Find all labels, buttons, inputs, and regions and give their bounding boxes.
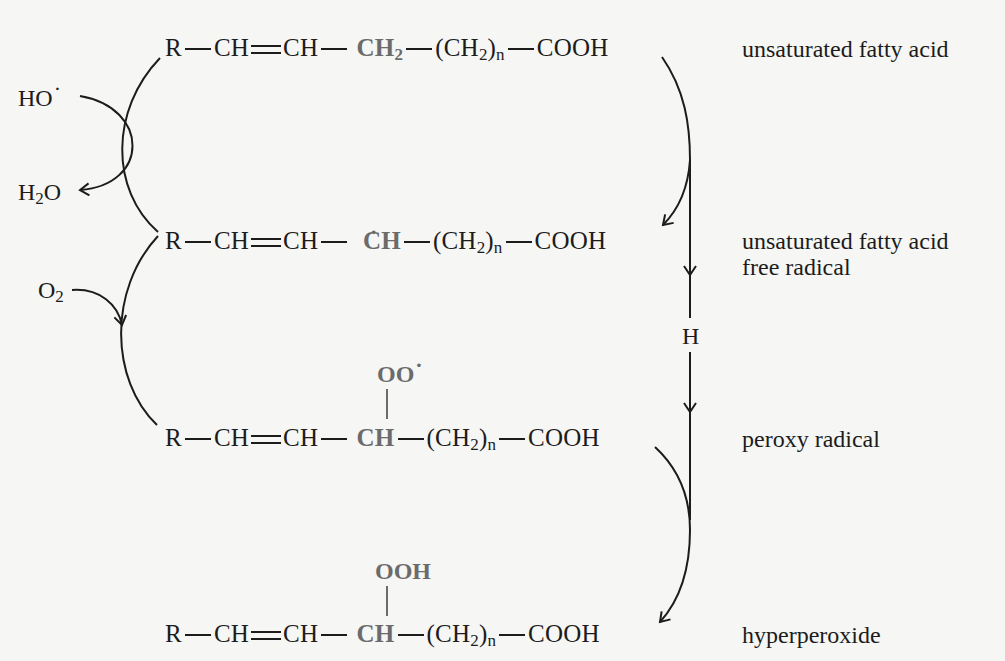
single-bond [185, 48, 211, 50]
single-bond [321, 438, 347, 440]
peroxy-substituent: OO· [377, 361, 423, 388]
ch-group: CH [214, 619, 249, 649]
chain-open: (CH [433, 226, 477, 256]
vertical-bond [386, 586, 388, 616]
double-bond [251, 435, 281, 444]
radical-dot: · [370, 217, 378, 247]
curved-arrow-icon [122, 58, 160, 232]
single-bond [398, 634, 424, 636]
single-bond [321, 48, 347, 50]
ch-group: CH [214, 226, 249, 256]
oxygen: O2 [38, 276, 64, 304]
curved-arrow-icon [662, 57, 690, 160]
double-bond [251, 45, 281, 54]
radical-dot: · [54, 76, 61, 101]
reactive-center: CH [357, 423, 395, 453]
water-o: O [44, 179, 61, 205]
chain-open: (CH [427, 619, 471, 649]
chain-close: ) [485, 226, 494, 256]
center-text: CH [357, 33, 395, 63]
double-bond [251, 631, 281, 640]
r-group: R [165, 619, 182, 649]
r-group: R [165, 33, 182, 63]
formula-unsaturated-fatty-acid: RCHCH CH2(CH2)nCOOH [165, 33, 608, 63]
radical-dot: · [415, 352, 422, 377]
ch-group: CH [214, 33, 249, 63]
carboxyl-group: COOH [528, 423, 600, 453]
chain-n: n [487, 435, 496, 454]
carboxyl-group: COOH [535, 226, 607, 256]
curved-arrow-icon [655, 447, 690, 530]
chain-close: ) [488, 33, 497, 63]
hydrogen-text: H [682, 323, 699, 349]
vertical-bond [386, 389, 388, 419]
single-bond [185, 634, 211, 636]
reaction-arrows [0, 0, 1005, 661]
carboxyl-group: COOH [528, 619, 600, 649]
hydroxyl-text: HO [18, 85, 53, 111]
single-bond [499, 438, 525, 440]
chain-open: (CH [427, 423, 471, 453]
curved-arrow-icon [121, 236, 158, 425]
chain-sub: 2 [470, 435, 479, 454]
chain-sub: 2 [477, 238, 486, 257]
single-bond [506, 241, 532, 243]
ch-group: CH [283, 423, 318, 453]
reactive-center: CH [357, 619, 395, 649]
reactive-center: ·CH [363, 226, 401, 256]
label-hyperperoxide: hyperperoxide [742, 622, 881, 648]
ch-group: CH [283, 619, 318, 649]
label-free-radical: unsaturated fatty acid free radical [742, 228, 949, 280]
hydrogen-atom: H [680, 322, 701, 350]
reactive-center: CH2 [357, 33, 404, 63]
oxygen-o: O [38, 277, 55, 303]
formula-peroxy-radical: RCHCH CH(CH2)nCOOH [165, 423, 600, 453]
label-line-2: free radical [742, 254, 949, 280]
substituent-text: OO [377, 361, 414, 387]
single-bond [321, 634, 347, 636]
hydroxyl-radical: HO· [18, 84, 61, 113]
double-bond [251, 238, 281, 247]
label-peroxy-radical: peroxy radical [742, 426, 880, 452]
formula-free-radical: RCHCH ·CH(CH2)nCOOH [165, 226, 606, 256]
chain-open: (CH [435, 33, 479, 63]
center-sub: 2 [395, 45, 404, 64]
chain-n: n [487, 631, 496, 650]
single-bond [185, 241, 211, 243]
single-bond [499, 634, 525, 636]
formula-hyperperoxide: RCHCH CH(CH2)nCOOH [165, 619, 600, 649]
center-text: CH [363, 226, 401, 256]
curved-arrow-icon [663, 160, 690, 225]
single-bond [404, 241, 430, 243]
curved-arrow-icon [72, 290, 122, 325]
single-bond [321, 241, 347, 243]
label-line-1: unsaturated fatty acid [742, 228, 949, 254]
oxygen-sub: 2 [55, 287, 64, 306]
water: H2O [18, 178, 61, 206]
curved-arrow-icon [660, 530, 690, 622]
r-group: R [165, 423, 182, 453]
label-unsaturated-fatty-acid: unsaturated fatty acid [742, 36, 949, 62]
r-group: R [165, 226, 182, 256]
single-bond [508, 48, 534, 50]
lipid-peroxidation-diagram: HO· H2O O2 H RCHCH CH2(CH2)nCOOH unsatur… [0, 0, 1005, 661]
chain-sub: 2 [470, 631, 479, 650]
ch-group: CH [214, 423, 249, 453]
ch-group: CH [283, 226, 318, 256]
hydroperoxy-substituent: OOH [375, 558, 431, 584]
carboxyl-group: COOH [537, 33, 609, 63]
ch-group: CH [283, 33, 318, 63]
water-sub: 2 [35, 189, 44, 208]
chain-n: n [496, 45, 505, 64]
chain-sub: 2 [479, 45, 488, 64]
chain-n: n [494, 238, 503, 257]
single-bond [185, 438, 211, 440]
single-bond [406, 48, 432, 50]
single-bond [398, 438, 424, 440]
water-h: H [18, 179, 35, 205]
